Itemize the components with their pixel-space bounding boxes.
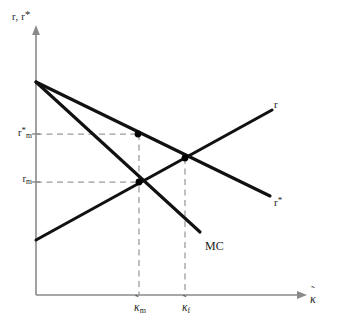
curve-mc [36, 82, 200, 232]
curve-label-mc: MC [205, 240, 224, 252]
marker-r-equals-rstar-intersection [182, 155, 189, 162]
x-tick-label-kappa-f-tilde-wrap: ˜ κ [182, 302, 188, 314]
curve-label-r: r [274, 99, 278, 110]
y-axis-title: r, r* [12, 10, 31, 23]
x-axis-title-kappa-tilde: ˜ κ [310, 293, 316, 305]
curve-label-r-star-superscript: * [278, 195, 283, 205]
curve-label-r-star: r* [274, 196, 282, 208]
x-tick-label-kappa-f-subscript: f [187, 306, 190, 315]
y-axis-arrowhead [32, 25, 40, 35]
curve-r [36, 110, 272, 240]
tilde-accent-icon: ˜ [135, 294, 139, 305]
x-tick-label-kappa-f: ˜ κ f [171, 302, 201, 315]
y-tick-label-rm-star-subscript: m [26, 131, 32, 140]
guide-lines-group [36, 134, 185, 295]
y-axis-title-rstar: r* [21, 11, 30, 22]
economics-diagram: r, r* ˜ κ r*m rm ˜ κ m ˜ κ f r r* MC [0, 0, 340, 331]
x-tick-label-kappa-m: ˜ κ m [125, 302, 155, 315]
tilde-accent-icon: ˜ [311, 285, 315, 296]
y-tick-label-rm-star: r*m [2, 126, 32, 139]
x-axis-arrowhead [297, 291, 307, 299]
x-tick-label-kappa-m-subscript: m [140, 306, 146, 315]
y-tick-label-rm-subscript: m [26, 177, 32, 186]
plot-canvas [0, 0, 340, 331]
x-axis-title: ˜ κ [310, 293, 316, 305]
x-tick-label-kappa-m-tilde-wrap: ˜ κ [134, 302, 140, 314]
axes-group [32, 25, 307, 299]
tilde-accent-icon: ˜ [183, 294, 187, 305]
y-axis-title-r: r, [12, 11, 18, 22]
curve-r-star [36, 82, 270, 196]
y-tick-label-rm: rm [2, 174, 32, 186]
marker-monopoly-point-on-rstar [135, 131, 142, 138]
marker-dots-group [135, 131, 189, 186]
marker-mc-equals-r-intersection [136, 179, 143, 186]
